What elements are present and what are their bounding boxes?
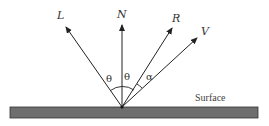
label-N: N [116,8,127,21]
angle-theta-right: θ [124,71,130,82]
diagram-svg: Surface L N R V θ θ α [0,0,269,126]
angle-theta-left: θ [106,73,112,84]
origin-point [120,105,123,108]
reflection-diagram: Surface L N R V θ θ α [0,0,269,126]
surface-label: Surface [195,92,226,103]
vector-L [66,27,122,107]
alpha-arc [137,84,142,88]
label-L: L [56,9,64,22]
label-R: R [171,12,180,25]
label-V: V [201,25,210,38]
surface-bar [10,107,258,118]
angle-alpha: α [146,71,153,82]
